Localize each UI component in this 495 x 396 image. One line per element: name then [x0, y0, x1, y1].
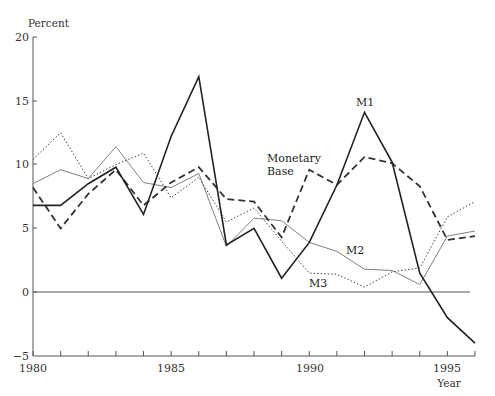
series-m3-line [33, 133, 475, 287]
x-tick-1980: 1980 [19, 362, 47, 375]
y-tick-20: 20 [15, 31, 29, 44]
series-m1-line [33, 77, 475, 344]
x-tick-1990: 1990 [296, 362, 324, 375]
y-tick-5: 5 [22, 222, 29, 235]
y-axis-label: Percent [28, 17, 70, 29]
y-tick-0: 0 [22, 286, 29, 299]
line-chart: 20 15 10 5 0 −5 Percent 1980 1985 1990 1… [0, 0, 495, 396]
x-axis-label: Year [436, 377, 461, 389]
x-ticks [33, 351, 475, 356]
x-tick-1995: 1995 [433, 362, 461, 375]
x-tick-labels: 1980 1985 1990 1995 [19, 362, 461, 375]
y-tick-labels: 20 15 10 5 0 −5 [13, 31, 29, 363]
label-m3: M3 [309, 277, 327, 290]
label-monetary-base-1: Monetary [267, 152, 322, 165]
label-monetary-base-2: Base [267, 165, 294, 178]
y-ticks [33, 37, 37, 292]
y-tick-15: 15 [15, 95, 29, 108]
y-tick-10: 10 [15, 158, 29, 171]
label-m1: M1 [356, 96, 374, 109]
series-m2-line [33, 147, 475, 285]
label-m2: M2 [346, 244, 364, 257]
x-tick-1985: 1985 [157, 362, 185, 375]
